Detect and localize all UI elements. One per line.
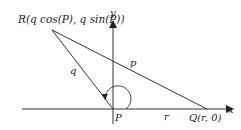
- y-axis-label: y: [109, 7, 116, 18]
- side-p-label: p: [130, 57, 137, 68]
- point-Q-label: Q(r, 0): [189, 112, 222, 123]
- side-q-label: q: [70, 65, 76, 76]
- triangle-diagram: R(q cos(P), q sin(P)) y x q p r P Q(r, 0…: [0, 0, 241, 130]
- side-r-label: r: [164, 111, 170, 122]
- x-axis-label: x: [228, 104, 234, 115]
- side-q: [52, 30, 113, 109]
- angle-arc-P: [105, 86, 131, 109]
- point-P-label: P: [114, 112, 122, 123]
- point-R-label: R(q cos(P), q sin(P)): [17, 13, 125, 25]
